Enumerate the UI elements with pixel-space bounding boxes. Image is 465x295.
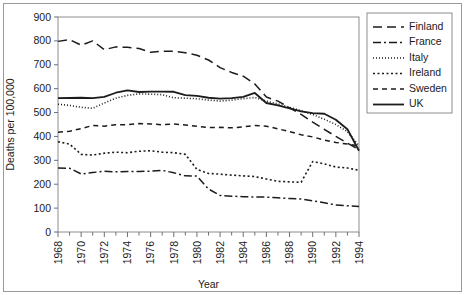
- line-chart: 0100200300400500600700800900196819701972…: [0, 0, 465, 295]
- y-axis-tick-label: 700: [33, 58, 51, 70]
- x-axis-tick-label: 1976: [144, 241, 156, 265]
- y-axis-tick-label: 900: [33, 11, 51, 23]
- legend-label-sweden: Sweden: [409, 82, 447, 94]
- y-axis-tick-label: 0: [45, 226, 51, 238]
- x-axis-tick-label: 1992: [330, 241, 342, 265]
- x-axis-tick-label: 1994: [353, 241, 365, 265]
- legend-label-uk: UK: [409, 97, 424, 109]
- x-axis-tick-label: 1982: [214, 241, 226, 265]
- x-axis-tick-label: 1984: [237, 241, 249, 265]
- x-axis-tick-label: 1978: [168, 241, 180, 265]
- y-axis-title: Deaths per 100,000: [4, 78, 16, 170]
- y-axis-tick-label: 100: [33, 202, 51, 214]
- x-axis-title: Year: [198, 278, 220, 290]
- chart-area: 0100200300400500600700800900196819701972…: [0, 0, 465, 295]
- y-axis-tick-label: 200: [33, 178, 51, 190]
- x-axis-tick-label: 1990: [306, 241, 318, 265]
- x-axis-tick-label: 1988: [283, 241, 295, 265]
- figure-container: 0100200300400500600700800900196819701972…: [0, 0, 465, 295]
- x-axis-tick-label: 1968: [52, 241, 64, 265]
- legend-label-finland: Finland: [409, 20, 444, 32]
- x-axis-tick-label: 1970: [75, 241, 87, 265]
- x-axis-tick-label: 1974: [121, 241, 133, 265]
- x-axis-tick-label: 1980: [191, 241, 203, 265]
- y-axis-tick-label: 800: [33, 34, 51, 46]
- y-axis-tick-label: 400: [33, 130, 51, 142]
- legend-label-ireland: Ireland: [409, 66, 441, 78]
- x-axis-tick-label: 1972: [98, 241, 110, 265]
- y-axis-tick-label: 300: [33, 154, 51, 166]
- x-axis-tick-label: 1986: [260, 241, 272, 265]
- legend-label-italy: Italy: [409, 51, 429, 63]
- y-axis-tick-label: 600: [33, 82, 51, 94]
- y-axis-tick-label: 500: [33, 106, 51, 118]
- legend-label-france: France: [409, 35, 442, 47]
